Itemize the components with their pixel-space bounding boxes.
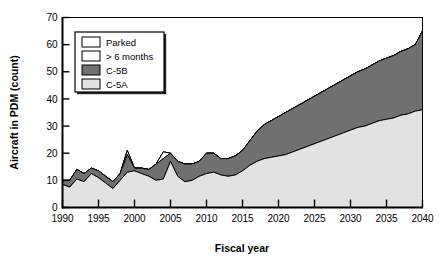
x-axis-title: Fiscal year [215, 242, 269, 254]
x-tick-label: 2030 [339, 213, 362, 224]
y-tick-label: 20 [46, 148, 58, 159]
y-tick-label: 60 [46, 39, 58, 50]
x-tick-label: 2040 [411, 213, 434, 224]
x-tick-label: 2000 [123, 213, 146, 224]
chart-container: 010203040506070 199019952000200520102015… [0, 0, 444, 259]
y-tick-label: 10 [46, 175, 58, 186]
x-tick-label: 2015 [231, 213, 254, 224]
x-tick-label: 1990 [51, 213, 74, 224]
x-tick-label: 2025 [303, 213, 326, 224]
legend-label-c5a: C-5A [106, 79, 128, 90]
chart-legend: Parked > 6 months C-5B C-5A [75, 32, 166, 94]
x-tick-label: 1995 [87, 213, 110, 224]
x-tick-label: 2010 [195, 213, 218, 224]
x-tick-label: 2035 [375, 213, 398, 224]
legend-swatch-c5a [82, 79, 100, 89]
y-axis-title: Aircraft in PDM (count) [8, 55, 20, 169]
legend-label-parked: Parked [106, 37, 136, 48]
legend-swatch-c5b [82, 65, 100, 75]
legend-box-shadow-bottom [77, 92, 166, 94]
x-tick-label: 2020 [267, 213, 290, 224]
legend-swatch-over-6-months [82, 51, 100, 61]
y-tick-label: 50 [46, 66, 58, 77]
legend-box-shadow-right [164, 34, 166, 94]
area-chart: 010203040506070 199019952000200520102015… [0, 0, 444, 259]
legend-swatch-parked [82, 37, 100, 47]
legend-label-over-6-months: > 6 months [106, 51, 154, 62]
y-tick-label: 0 [52, 202, 58, 213]
legend-label-c5b: C-5B [106, 65, 128, 76]
x-tick-label: 2005 [159, 213, 182, 224]
y-tick-label: 40 [46, 94, 58, 105]
y-tick-label: 30 [46, 121, 58, 132]
y-tick-label: 70 [46, 12, 58, 23]
